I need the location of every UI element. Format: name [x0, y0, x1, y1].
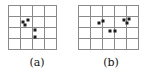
gridline-horizontal [78, 27, 139, 28]
gridline-horizontal [78, 38, 139, 39]
data-point-dot [101, 19, 104, 22]
caption-a: (a) [0, 56, 74, 70]
gridline-horizontal [8, 5, 57, 6]
data-point-dot [108, 30, 111, 33]
data-point-dot [34, 28, 37, 31]
gridline-horizontal [8, 49, 57, 50]
gridline-horizontal [8, 27, 57, 28]
data-point-dot [34, 36, 37, 39]
grid-b [78, 5, 138, 49]
data-point-dot [26, 19, 29, 22]
data-point-dot [24, 23, 27, 26]
caption-b: (b) [74, 56, 148, 70]
grid-a-cells [8, 5, 56, 49]
data-point-dot [127, 18, 130, 21]
data-point-dot [126, 22, 129, 25]
grid-a [8, 5, 56, 49]
gridline-horizontal [78, 5, 139, 6]
gridline-horizontal [8, 38, 57, 39]
figure-root: (a) (b) [0, 0, 148, 78]
gridline-horizontal [8, 16, 57, 17]
gridline-horizontal [78, 49, 139, 50]
data-point-dot [114, 30, 117, 33]
grid-b-cells [78, 5, 138, 49]
